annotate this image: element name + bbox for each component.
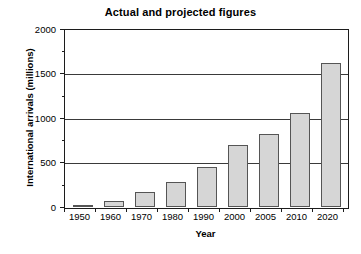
y-axis-label-1000: 1000: [22, 114, 56, 124]
bars-layer: [64, 29, 347, 207]
x-axis-label-2000: 2000: [217, 212, 252, 222]
bar-2005[interactable]: [259, 134, 279, 207]
bar-1990[interactable]: [197, 167, 217, 207]
bar-2000[interactable]: [228, 145, 248, 207]
bar-1980[interactable]: [166, 182, 186, 207]
bar-1960[interactable]: [104, 201, 124, 207]
y-axis-label-2000: 2000: [22, 25, 56, 35]
y-axis-label-500: 500: [22, 158, 56, 168]
bar-1950[interactable]: [73, 205, 93, 207]
x-axis-label-1980: 1980: [155, 212, 190, 222]
x-axis-label-1970: 1970: [124, 212, 159, 222]
x-axis-title: Year: [64, 228, 347, 239]
x-axis-label-1960: 1960: [93, 212, 128, 222]
x-axis-label-1990: 1990: [186, 212, 221, 222]
x-axis-label-2010: 2010: [279, 212, 314, 222]
x-axis-label-2005: 2005: [248, 212, 283, 222]
y-axis-label-0: 0: [22, 203, 56, 213]
bar-2020[interactable]: [321, 63, 341, 207]
x-axis-label-2020: 2020: [310, 212, 345, 222]
bar-chart-figure: Actual and projected figures Internation…: [0, 0, 361, 254]
bar-2010[interactable]: [290, 113, 310, 207]
chart-title: Actual and projected figures: [0, 6, 361, 18]
bar-1970[interactable]: [135, 192, 155, 207]
x-axis-label-1950: 1950: [62, 212, 97, 222]
y-axis-label-1500: 1500: [22, 69, 56, 79]
